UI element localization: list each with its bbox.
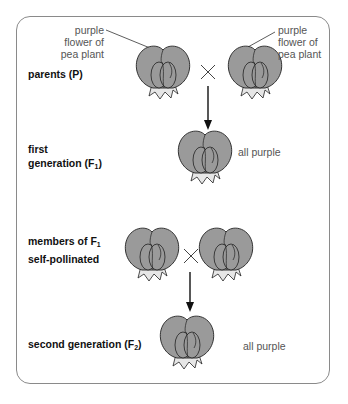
label-second-generation: second generation (F2) <box>28 337 142 355</box>
label-parents: parents (P) <box>28 67 83 81</box>
f1-member-flower-right-icon <box>199 228 252 281</box>
annotation-f2-result: all purple <box>243 340 286 352</box>
cross-symbol-icon <box>201 65 215 79</box>
annotation-f1-result: all purple <box>238 146 281 158</box>
cross-symbol-icon <box>184 249 198 263</box>
f2-flower-icon <box>160 316 213 369</box>
f1-member-flower-left-icon <box>125 228 178 281</box>
arrow-down-icon <box>186 302 194 312</box>
f1-flower-icon <box>178 131 231 184</box>
arrow-down-icon <box>204 120 212 130</box>
left-leader-line <box>106 30 150 48</box>
label-members-f1: members of F1 self-pollinated <box>28 234 101 266</box>
figure-caption-clipped <box>14 398 334 404</box>
parent-flower-left-icon <box>136 46 189 99</box>
parent-flower-right-icon <box>228 46 281 99</box>
right-leader-line <box>248 32 275 47</box>
annotation-right-flower: purple flower of pea plant <box>278 24 321 60</box>
label-first-generation: first generation (F1) <box>28 142 102 174</box>
annotation-left-flower: purple flower of pea plant <box>58 24 104 60</box>
